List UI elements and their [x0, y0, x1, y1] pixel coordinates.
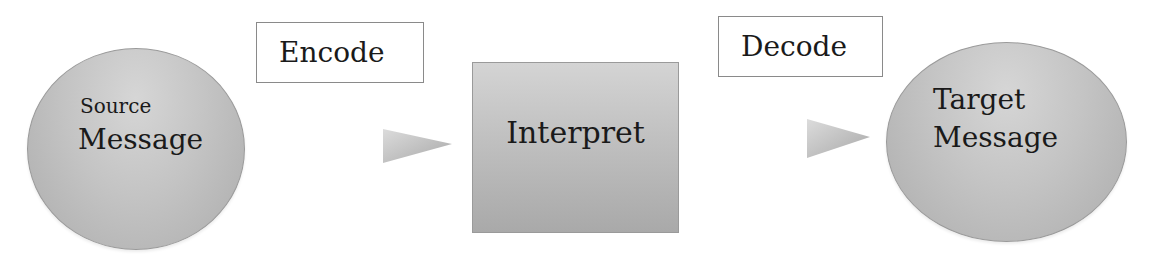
encode-label-box: Encode: [256, 22, 424, 83]
arrow-right-icon: [807, 117, 871, 159]
message-label: Message: [78, 123, 203, 156]
encode-label: Encode: [279, 36, 385, 69]
target-label: Target: [933, 83, 1025, 116]
source-message-node: Source Message: [27, 48, 245, 250]
decode-label: Decode: [741, 30, 847, 63]
target-message-node: Target Message: [886, 42, 1127, 242]
source-label: Source: [80, 94, 151, 118]
interpret-node: Interpret: [472, 62, 679, 233]
interpret-label: Interpret: [506, 115, 645, 232]
decode-label-box: Decode: [718, 16, 883, 77]
arrow-right-icon: [383, 127, 453, 164]
message-label: Message: [933, 121, 1058, 154]
